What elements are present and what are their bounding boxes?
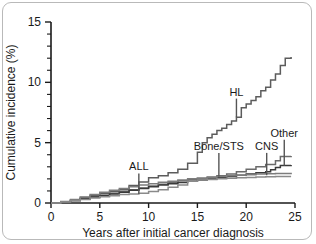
series-line-all [51, 176, 291, 203]
x-tick-label: 15 [191, 210, 205, 224]
annotation-label-all: ALL [129, 160, 149, 172]
annotation-label-bone-sts: Bone/STS [194, 140, 244, 152]
annotation-label-other: Other [271, 127, 299, 139]
y-tick-label: 10 [28, 75, 42, 89]
cumulative-incidence-chart: 0510152025051015Years after initial canc… [0, 0, 316, 244]
annotation-label-hl: HL [229, 86, 243, 98]
y-tick-label: 15 [28, 15, 42, 29]
figure-container: 0510152025051015Years after initial canc… [0, 0, 316, 244]
x-tick-label: 0 [48, 210, 55, 224]
y-axis-title: Cumulative incidence (%) [4, 44, 18, 180]
annotation-label-cns: CNS [255, 140, 278, 152]
y-tick-label: 0 [34, 196, 41, 210]
y-tick-label: 5 [34, 136, 41, 150]
x-tick-label: 5 [96, 210, 103, 224]
x-tick-label: 20 [240, 210, 254, 224]
x-axis-title: Years after initial cancer diagnosis [82, 226, 264, 240]
x-tick-label: 25 [288, 210, 302, 224]
x-tick-label: 10 [142, 210, 156, 224]
series-line-other [51, 156, 291, 203]
